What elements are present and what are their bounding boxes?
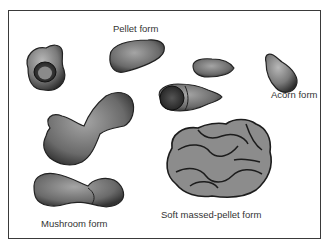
elongated-pellet-shape <box>110 40 165 72</box>
label-soft-massed-pellet-form: Soft massed-pellet form <box>161 210 261 220</box>
cupped-pellet-shape <box>27 45 65 90</box>
soft-massed-pellet-shape <box>167 120 271 198</box>
label-acorn-form: Acorn form <box>271 90 317 100</box>
mushroom-pellet-lower-shape <box>34 174 124 207</box>
small-pellet-shape <box>193 59 234 77</box>
label-mushroom-form: Mushroom form <box>41 219 108 229</box>
acorn-pellet-shape <box>266 54 297 92</box>
label-pellet-form: Pellet form <box>113 24 158 34</box>
segmented-pellet-shape <box>159 84 222 111</box>
mushroom-pellet-upper-shape <box>44 93 134 165</box>
